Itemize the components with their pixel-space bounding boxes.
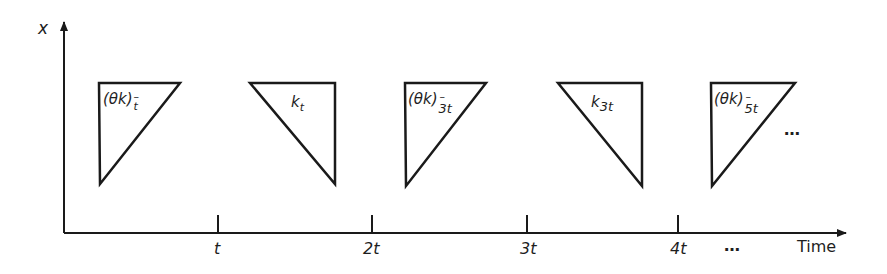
x-axis-label: Time xyxy=(797,239,836,255)
x-tick-label-2t: 2t xyxy=(363,241,379,257)
timeline-diagram: x Time t 2t 3t 4t … … (θk)–t kt (θk)–3t … xyxy=(0,0,887,274)
label-sub: 3t xyxy=(439,102,452,115)
triangle-label-theta-k-5t: (θk)–5t xyxy=(714,92,762,107)
label-base: (θk) xyxy=(103,90,133,108)
diagram-canvas xyxy=(0,0,887,274)
x-tick-label-t: t xyxy=(214,241,220,257)
label-sub: t xyxy=(134,101,138,112)
x-tick-label-3t: 3t xyxy=(520,241,536,257)
label-base: (θk) xyxy=(408,90,438,108)
label-sub: 5t xyxy=(745,102,758,115)
x-tick-label-4t: 4t xyxy=(670,241,686,257)
triangle-label-k-3t: k3t xyxy=(591,95,613,113)
sequence-continuation-dots: … xyxy=(784,122,802,138)
triangle-label-theta-k-t: (θk)–t xyxy=(103,92,143,107)
label-base: (θk) xyxy=(714,90,744,108)
triangle-label-k-t: kt xyxy=(291,95,304,113)
label-base: k xyxy=(591,93,600,111)
axis-continuation-dots: … xyxy=(724,238,742,254)
triangle-label-theta-k-3t: (θk)–3t xyxy=(408,92,456,107)
y-axis-label: x xyxy=(38,20,48,37)
label-base: k xyxy=(291,93,300,111)
label-sub: 3t xyxy=(600,99,613,114)
label-sub: t xyxy=(300,101,304,114)
